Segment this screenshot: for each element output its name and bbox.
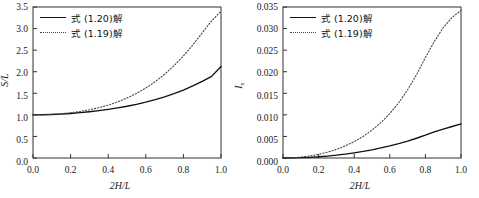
xtick-label: 0.2 xyxy=(59,166,83,176)
legend-label: 式 (1.20)解 xyxy=(71,11,123,25)
x-axis-symbol: H xyxy=(115,180,122,191)
legend-item-dotted: 式 (1.19)解 xyxy=(40,27,123,38)
legend-item-dotted: 式 (1.19)解 xyxy=(290,27,373,38)
xtick-label: 0.6 xyxy=(378,166,402,176)
legend-line-solid-icon xyxy=(40,17,66,19)
xtick-label: 0.0 xyxy=(271,166,295,176)
ytick-label: 3.0 xyxy=(4,25,28,35)
y-axis-symbol: S xyxy=(0,82,10,87)
xtick-label: 0.8 xyxy=(171,166,195,176)
legend-left: 式 (1.20)解 式 (1.19)解 xyxy=(40,12,123,38)
series-line-solid xyxy=(33,67,221,115)
y-axis-symbol: I xyxy=(233,85,244,88)
xtick-label: 0.8 xyxy=(413,166,437,176)
chart-panel-left: 3.5 3.0 2.5 2.0 1.5 1.0 0.5 0.0 0.0 0.2 … xyxy=(0,0,239,198)
x-axis-symbol: H xyxy=(355,180,362,191)
xtick-label: 0.6 xyxy=(134,166,158,176)
two-panel-figure: 3.5 3.0 2.5 2.0 1.5 1.0 0.5 0.0 0.0 0.2 … xyxy=(0,0,479,198)
ytick-label: 0.025 xyxy=(242,47,278,57)
legend-label: 式 (1.19)解 xyxy=(71,26,123,40)
legend-line-solid-icon xyxy=(290,17,316,19)
legend-line-dotted-icon xyxy=(290,32,316,34)
ytick-label: 1.0 xyxy=(4,114,28,124)
legend-label: 式 (1.20)解 xyxy=(321,11,373,25)
xtick-label: 0.4 xyxy=(342,166,366,176)
legend-item-solid: 式 (1.20)解 xyxy=(40,12,123,23)
y-axis-denominator: L xyxy=(0,73,10,79)
ytick-label: 0.005 xyxy=(242,136,278,146)
x-axis-denominator: L xyxy=(365,180,371,191)
xtick-label: 0.2 xyxy=(307,166,331,176)
y-axis-title-right: Is xyxy=(234,70,246,102)
xtick-label: 0.0 xyxy=(21,166,45,176)
ytick-label: 0.015 xyxy=(242,92,278,102)
legend-item-solid: 式 (1.20)解 xyxy=(290,12,373,23)
ytick-label: 2.5 xyxy=(4,47,28,57)
ytick-label: 0.035 xyxy=(242,3,278,13)
legend-right: 式 (1.20)解 式 (1.19)解 xyxy=(290,12,373,38)
ytick-label: 0.020 xyxy=(242,69,278,79)
y-axis-slash: / xyxy=(0,79,10,82)
xtick-label: 1.0 xyxy=(449,166,473,176)
chart-panel-right: 0.035 0.030 0.025 0.020 0.015 0.010 0.00… xyxy=(240,0,479,198)
ytick-label: 0.5 xyxy=(4,136,28,146)
x-axis-title-left: 2H/L xyxy=(95,181,145,191)
ytick-label: 0.010 xyxy=(242,114,278,124)
y-axis-title-left: S/L xyxy=(0,64,10,96)
x-axis-denominator: L xyxy=(125,180,131,191)
legend-label: 式 (1.19)解 xyxy=(321,26,373,40)
xtick-label: 0.4 xyxy=(96,166,120,176)
ytick-label: 3.5 xyxy=(4,3,28,13)
ytick-label: 0.030 xyxy=(242,25,278,35)
xtick-label: 1.0 xyxy=(209,166,233,176)
x-axis-title-right: 2H/L xyxy=(335,181,385,191)
y-axis-subscript: s xyxy=(238,83,246,86)
legend-line-dotted-icon xyxy=(40,32,66,34)
series-line-solid xyxy=(283,124,461,158)
